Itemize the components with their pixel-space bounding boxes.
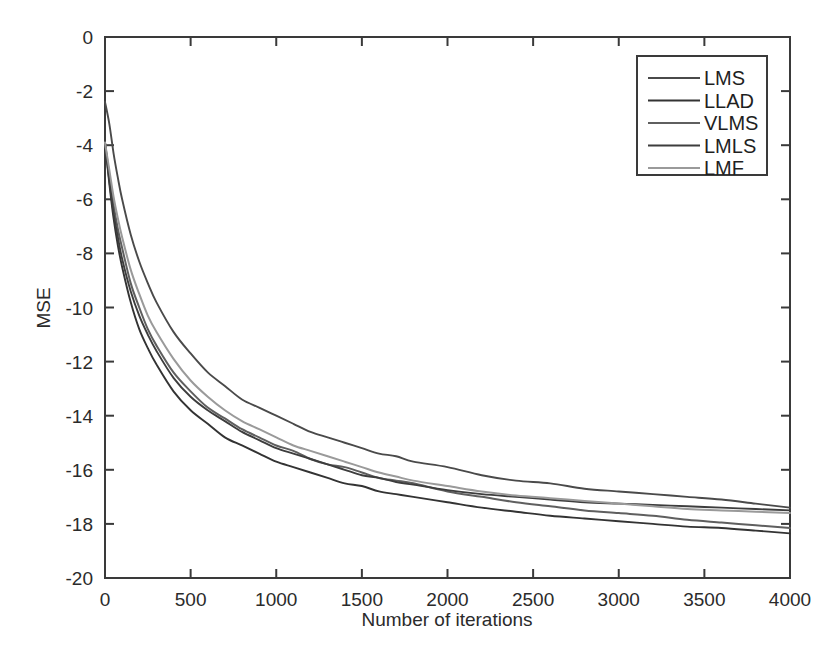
x-tick-label: 3000 <box>598 589 640 610</box>
x-tick-label: 1500 <box>341 589 383 610</box>
legend-label-lmls: LMLS <box>704 135 756 157</box>
x-tick-label: 2500 <box>512 589 554 610</box>
y-tick-label: -14 <box>66 406 94 427</box>
y-tick-label: 0 <box>82 27 93 48</box>
y-tick-label: -16 <box>66 460 93 481</box>
y-tick-label: -4 <box>76 135 93 156</box>
y-axis-label: MSE <box>33 287 54 328</box>
y-tick-label: -12 <box>66 352 93 373</box>
x-tick-label: 4000 <box>769 589 811 610</box>
legend-label-vlms: VLMS <box>704 112 758 134</box>
x-tick-label: 1000 <box>255 589 297 610</box>
legend[interactable]: LMSLLADVLMSLMLSLMF <box>637 56 767 179</box>
y-tick-label: -8 <box>76 243 93 264</box>
y-tick-label: -10 <box>66 298 93 319</box>
x-axis-label: Number of iterations <box>361 609 532 630</box>
x-tick-label: 500 <box>175 589 207 610</box>
mse-convergence-chart: 0-2-4-6-8-10-12-14-16-18-20 050010001500… <box>0 0 836 660</box>
x-axis-tick-labels: 05001000150020002500300035004000 <box>100 589 811 610</box>
y-tick-label: -6 <box>76 189 93 210</box>
x-tick-label: 0 <box>100 589 111 610</box>
chart-svg: 0-2-4-6-8-10-12-14-16-18-20 050010001500… <box>0 0 836 660</box>
legend-label-lms: LMS <box>704 67 745 89</box>
x-tick-label: 3500 <box>683 589 725 610</box>
y-tick-label: -20 <box>66 568 93 589</box>
x-tick-label: 2000 <box>426 589 468 610</box>
y-tick-label: -2 <box>76 81 93 102</box>
legend-label-llad: LLAD <box>704 90 754 112</box>
y-tick-label: -18 <box>66 514 93 535</box>
legend-label-lmf: LMF <box>704 157 744 179</box>
